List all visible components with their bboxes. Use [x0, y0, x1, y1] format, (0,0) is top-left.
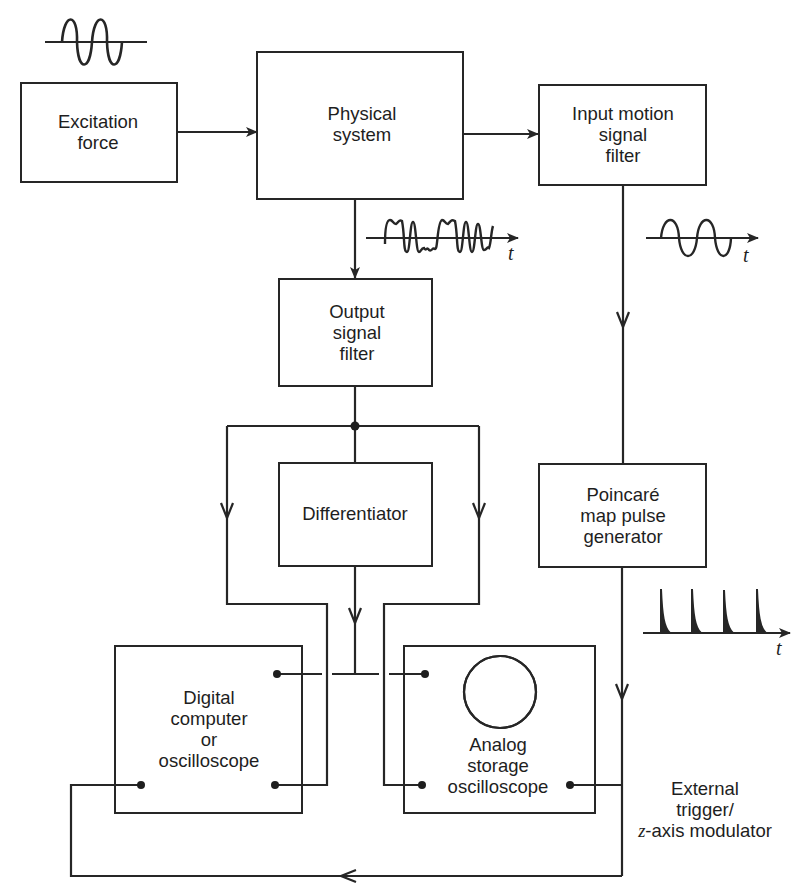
label-line: Differentiator: [302, 503, 408, 524]
label-text: -axis modulator: [645, 820, 771, 841]
label-digital-computer: Digital computer or oscilloscope: [159, 687, 260, 771]
label-line: trigger/: [638, 799, 772, 820]
label-differentiator: Differentiator: [302, 503, 408, 524]
label-external-trigger: External trigger/ z-axis modulator: [638, 778, 772, 842]
label-line: generator: [580, 526, 665, 547]
label-input-motion-filter: Input motion signal filter: [572, 103, 674, 166]
time-label-pulses: t: [776, 637, 782, 660]
label-line: z-axis modulator: [638, 820, 772, 842]
label-excitation-force: Excitation force: [58, 111, 138, 153]
label-line: computer: [159, 708, 260, 729]
label-line: Physical: [328, 103, 397, 124]
label-line: Excitation: [58, 111, 138, 132]
label-poincare-generator: Poincaré map pulse generator: [580, 484, 665, 547]
label-line: oscilloscope: [448, 776, 549, 797]
label-line: filter: [329, 343, 385, 364]
label-output-signal-filter: Output signal filter: [329, 301, 385, 364]
label-line: storage: [448, 755, 549, 776]
time-label-output: t: [508, 242, 514, 265]
label-analog-oscilloscope: Analog storage oscilloscope: [448, 734, 549, 797]
label-line: signal: [572, 124, 674, 145]
label-line: signal: [329, 322, 385, 343]
label-line: Input motion: [572, 103, 674, 124]
label-line: map pulse: [580, 505, 665, 526]
label-line: External: [638, 778, 772, 799]
pulse-train-icon: [643, 589, 790, 633]
label-line: system: [328, 124, 397, 145]
junction-dot: [351, 422, 360, 431]
input-sine-icon: [646, 220, 758, 256]
label-line: filter: [572, 145, 674, 166]
label-line: oscilloscope: [159, 750, 260, 771]
label-line: or: [159, 729, 260, 750]
label-line: Poincaré: [580, 484, 665, 505]
excitation-sine-icon: [45, 20, 147, 65]
label-physical-system: Physical system: [328, 103, 397, 145]
output-waveform-icon: [366, 220, 518, 252]
label-line: Output: [329, 301, 385, 322]
label-line: force: [58, 132, 138, 153]
label-line: Digital: [159, 687, 260, 708]
label-line: Analog: [448, 734, 549, 755]
time-label-input: t: [743, 244, 749, 267]
